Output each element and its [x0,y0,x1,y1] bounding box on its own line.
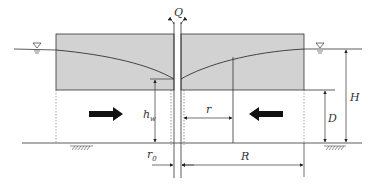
discharge-label: Q [174,6,183,19]
ground-hatch-icon-left [70,146,93,150]
water-level-icon-left [33,43,41,53]
flow-arrow-right [89,107,123,121]
static-water-level-left [14,49,56,50]
h-label: H [349,91,360,104]
confining-layer-right [181,34,304,90]
flow-arrow-left [249,107,283,121]
confining-layer-left [56,34,174,90]
d-label: D [327,112,337,125]
r0-label: r0 [147,148,157,163]
discharge-arrow-left [168,20,174,24]
discharge-arrow-right [181,20,187,24]
ground-hatch-icon-right [324,146,346,150]
r-label: r [206,103,212,116]
r-influence-label: R [240,150,249,163]
water-level-icon-right [316,43,324,53]
well-drawdown-diagram: Q hw r D H r0 R [0,0,377,190]
hw-label: hw [143,108,156,123]
